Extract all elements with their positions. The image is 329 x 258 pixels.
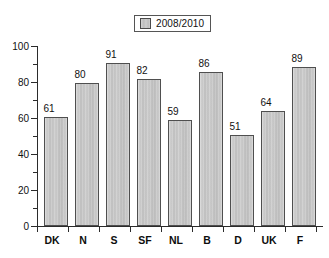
bar-value-sf: 82 [125, 66, 159, 76]
x-axis-label-dk: DK [35, 235, 69, 246]
bar-uk [261, 111, 285, 226]
y-axis-tick-label-20: 20 [3, 186, 29, 196]
bar-value-s: 91 [94, 50, 128, 60]
y-axis-tick-label-40: 40 [3, 150, 29, 160]
y-axis-tick-label-100: 100 [3, 42, 29, 52]
bar-sf [137, 79, 161, 226]
x-axis-tick-3 [130, 227, 131, 232]
y-axis-labels: 100 80 60 40 20 0 [0, 0, 29, 258]
x-axis-label-s: S [97, 235, 131, 246]
x-axis-label-d: D [221, 235, 255, 246]
bar-value-nl: 59 [156, 107, 190, 117]
x-axis-label-b: B [190, 235, 224, 246]
bar-s [106, 63, 130, 226]
x-axis-tick-8 [285, 227, 286, 232]
bar-value-uk: 64 [249, 98, 283, 108]
bar-chart: 2008/2010 100 80 60 40 20 0 [0, 0, 329, 258]
y-axis-tick-label-0: 0 [3, 222, 29, 232]
bar-nl [168, 120, 192, 226]
x-axis-line [37, 226, 323, 227]
bar-dk [44, 117, 68, 226]
bar-value-f: 89 [280, 54, 314, 64]
x-axis-label-n: N [66, 235, 100, 246]
legend-swatch-icon [140, 18, 151, 29]
x-axis-label-f: F [283, 235, 317, 246]
x-axis-tick-4 [161, 227, 162, 232]
bar-value-dk: 61 [32, 104, 66, 114]
bar-value-b: 86 [187, 59, 221, 69]
y-axis-tick-label-80: 80 [3, 78, 29, 88]
bar-b [199, 72, 223, 226]
bar-n [75, 83, 99, 226]
x-axis-label-uk: UK [252, 235, 286, 246]
y-axis-tick-label-60: 60 [3, 114, 29, 124]
x-axis-tick-9 [316, 227, 317, 232]
x-axis-tick-7 [254, 227, 255, 232]
legend-label-0: 2008/2010 [156, 19, 204, 29]
x-axis-label-sf: SF [128, 235, 162, 246]
x-axis-tick-1 [68, 227, 69, 232]
bar-f [292, 67, 316, 226]
x-axis-tick-6 [223, 227, 224, 232]
x-axis-tick-5 [192, 227, 193, 232]
bar-value-d: 51 [218, 122, 252, 132]
x-axis-tick-2 [99, 227, 100, 232]
x-axis-tick-0 [37, 227, 38, 232]
chart-legend: 2008/2010 [134, 15, 211, 32]
bar-value-n: 80 [63, 70, 97, 80]
bar-d [230, 135, 254, 226]
x-axis-label-nl: NL [159, 235, 193, 246]
